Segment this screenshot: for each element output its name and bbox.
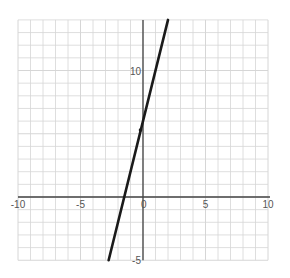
y-tick-label: 10 [130,66,142,77]
x-tick-label: 5 [203,199,209,210]
coordinate-plane: -10-5051010-5 [0,0,290,278]
data-series [109,20,168,260]
y-tick-label: -5 [132,255,141,266]
x-tick-label: 10 [262,199,274,210]
plotted-line [109,20,168,260]
x-tick-label: -5 [76,199,85,210]
x-tick-label: -10 [11,199,26,210]
x-tick-label: 0 [141,199,147,210]
marked-point [139,128,143,132]
